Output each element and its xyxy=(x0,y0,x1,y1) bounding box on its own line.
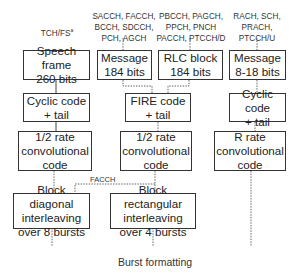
message-8-18-text: Message 8-18 bits xyxy=(234,51,281,79)
channel-label-access: RACH, SCH, PRACH, PTCCH/U xyxy=(224,11,290,44)
message-184-box: Message 184 bits xyxy=(97,50,152,80)
burst-formatting-label: Burst formatting xyxy=(118,256,192,268)
channel-label-tch-fs: TCH/FSa xyxy=(22,25,92,39)
rlc-block-text: RLC block 184 bits xyxy=(164,51,217,79)
block-diagonal-text: Block diagonal interleaving over 8 burst… xyxy=(14,183,89,239)
block-rectangular-box: Block rectangular interleaving over 4 bu… xyxy=(110,193,196,229)
fire-code-text: FIRE code + tail xyxy=(131,94,186,122)
speech-frame-text: Speech frame 260 bits xyxy=(24,44,89,86)
r-rate-conv-box: R rate convolutional code xyxy=(214,131,286,171)
half-rate-conv-mid-box: 1/2 rate convolutional code xyxy=(120,131,192,171)
cyclic-code-right-text: Cyclic code + tail xyxy=(230,87,285,129)
block-diagonal-box: Block diagonal interleaving over 8 burst… xyxy=(13,193,90,229)
fire-code-box: FIRE code + tail xyxy=(125,93,191,122)
half-rate-conv-left-box: 1/2 rate convolutional code xyxy=(18,131,92,171)
block-rectangular-text: Block rectangular interleaving over 4 bu… xyxy=(111,183,195,239)
cyclic-code-left-text: Cyclic code + tail xyxy=(27,94,86,122)
speech-frame-box: Speech frame 260 bits xyxy=(23,50,90,80)
channel-label-packet: PBCCH, PAGCH, PPCH, PNCH PACCH, PTCCH/D xyxy=(156,11,226,44)
message-8-18-box: Message 8-18 bits xyxy=(229,50,286,80)
r-rate-conv-text: R rate convolutional code xyxy=(216,130,284,172)
message-184-text: Message 184 bits xyxy=(101,51,148,79)
footnote-marker: a xyxy=(70,27,73,33)
cyclic-code-left-box: Cyclic code + tail xyxy=(23,93,90,122)
channel-label-signalling: SACCH, FACCH, BCCH, SDCCH, PCH, AGCH xyxy=(90,11,158,44)
half-rate-conv-mid-text: 1/2 rate convolutional code xyxy=(122,130,190,172)
cyclic-code-right-box: Cyclic code + tail xyxy=(229,93,286,122)
half-rate-conv-left-text: 1/2 rate convolutional code xyxy=(21,130,89,172)
rlc-block-box: RLC block 184 bits xyxy=(158,50,223,80)
channel-label-text: TCH/FS xyxy=(41,29,71,38)
